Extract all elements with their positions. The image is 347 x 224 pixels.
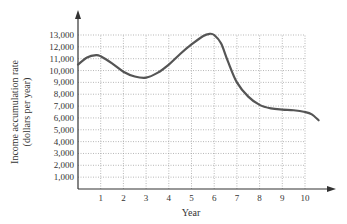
x-axis-arrow-icon — [327, 186, 336, 192]
x-tick-label: 3 — [144, 193, 149, 203]
y-tick-label: 2,000 — [54, 160, 75, 170]
y-tick-label: 4,000 — [54, 137, 75, 147]
x-tick-label: 2 — [121, 193, 126, 203]
y-tick-label: 9,000 — [54, 77, 75, 87]
y-tick-label: 7,000 — [54, 101, 75, 111]
axes — [75, 10, 336, 192]
x-axis-label: Year — [182, 207, 201, 218]
y-tick-labels: 1,0002,0003,0004,0005,0006,0007,0008,000… — [49, 30, 74, 182]
y-tick-label: 10,000 — [49, 66, 74, 76]
y-tick-label: 13,000 — [49, 30, 74, 40]
y-tick-label: 5,000 — [54, 125, 75, 135]
y-axis-sublabel: (dollars per year) — [21, 78, 33, 147]
x-tick-label: 7 — [235, 193, 240, 203]
y-axis-label: Income accumulation rate — [9, 60, 20, 164]
x-tick-labels: 12345678910 — [98, 193, 310, 203]
y-tick-label: 12,000 — [49, 42, 74, 52]
y-axis-arrow-icon — [75, 10, 81, 19]
grid-lines — [78, 35, 305, 189]
x-tick-label: 4 — [167, 193, 172, 203]
y-tick-label: 1,000 — [54, 172, 75, 182]
y-tick-label: 6,000 — [54, 113, 75, 123]
x-tick-label: 8 — [257, 193, 262, 203]
y-tick-label: 3,000 — [54, 148, 75, 158]
y-tick-label: 8,000 — [54, 89, 75, 99]
y-tick-label: 11,000 — [50, 54, 75, 64]
x-tick-label: 9 — [280, 193, 285, 203]
x-tick-label: 10 — [301, 193, 311, 203]
income-rate-chart: 12345678910 1,0002,0003,0004,0005,0006,0… — [0, 0, 347, 224]
x-tick-label: 5 — [189, 193, 194, 203]
x-tick-label: 6 — [212, 193, 217, 203]
x-tick-label: 1 — [98, 193, 103, 203]
